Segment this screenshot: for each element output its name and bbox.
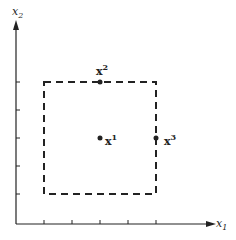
y-axis-arrow-icon: [13, 20, 19, 30]
y-axis-label: x2: [12, 6, 23, 20]
label-x3: x3: [164, 133, 176, 147]
point-x1: [98, 136, 103, 141]
point-x3: [154, 136, 159, 141]
x-axis-label: x1: [216, 218, 227, 232]
point-x2: [98, 80, 103, 85]
label-x1: x1: [105, 133, 117, 147]
diagram-canvas: [0, 0, 236, 240]
x-axis-arrow-icon: [206, 221, 216, 227]
label-x2: x2: [96, 63, 108, 77]
